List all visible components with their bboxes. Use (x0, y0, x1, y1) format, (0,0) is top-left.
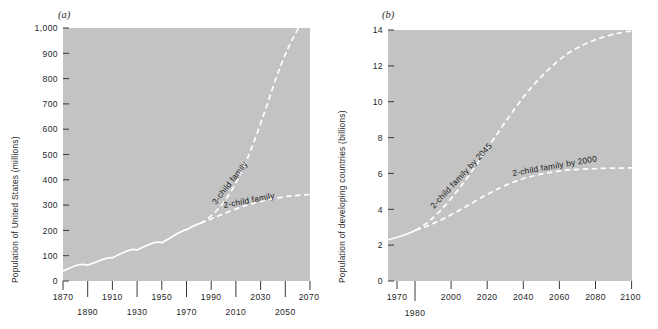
panel-b: (b) Population of developing countries (… (329, 0, 658, 329)
panel-a-xtick-2050: 2050 (275, 307, 296, 317)
panel-b-ytick-4: 4 (378, 205, 383, 215)
panel-b-chart: (b) Population of developing countries (… (329, 0, 658, 329)
panel-a-xtick-1910: 1910 (102, 292, 123, 302)
panel-b-x-tick-labels-upper: 1970 2000 2020 2040 2060 2080 2100 (387, 292, 641, 302)
panel-a-ytick-0: 0 (53, 276, 58, 286)
panel-a-ytick-100: 100 (42, 251, 58, 261)
panel-b-y-axis-title: Population of developing countries (bill… (337, 110, 347, 283)
panel-b-ytick-14: 14 (373, 25, 383, 35)
panel-a-y-axis-title: Population of United States (millions) (10, 136, 20, 283)
panel-b-xtick-2020: 2020 (477, 292, 498, 302)
panel-a-ytick-600: 600 (42, 124, 58, 134)
panel-a-ytick-500: 500 (42, 150, 58, 160)
panel-b-label: (b) (382, 9, 395, 21)
panel-a-ytick-1000: 1,000 (34, 23, 58, 33)
panel-b-y-tick-labels: 0 2 4 6 8 10 12 14 (373, 25, 383, 286)
panel-a-ytick-400: 400 (42, 175, 58, 185)
panel-a-xtick-1930: 1930 (127, 307, 148, 317)
panel-b-xtick-1970: 1970 (387, 292, 408, 302)
panel-a-xtick-1970: 1970 (176, 307, 197, 317)
panel-b-ytick-6: 6 (378, 169, 383, 179)
panel-a: (a) Population of United States (million… (0, 0, 329, 329)
panel-a-ytick-900: 900 (42, 49, 58, 59)
panel-b-ytick-10: 10 (373, 97, 383, 107)
panel-b-xtick-2060: 2060 (549, 292, 570, 302)
panel-a-y-tick-labels: 0 100 200 300 400 500 600 700 800 900 1,… (34, 23, 58, 286)
panel-a-plot-area (63, 28, 310, 281)
panel-a-chart: (a) Population of United States (million… (0, 0, 329, 329)
panel-a-xtick-1890: 1890 (77, 307, 98, 317)
panel-a-xtick-1950: 1950 (151, 292, 172, 302)
panel-a-x-ticks (63, 281, 310, 297)
panel-a-ytick-300: 300 (42, 200, 58, 210)
panel-b-xtick-2080: 2080 (585, 292, 606, 302)
panel-b-ytick-12: 12 (373, 61, 383, 71)
panel-a-xtick-1870: 1870 (53, 292, 74, 302)
panel-a-ytick-700: 700 (42, 99, 58, 109)
panel-b-xtick-1980: 1980 (405, 308, 426, 318)
panel-a-label: (a) (58, 9, 71, 21)
panel-b-xtick-2000: 2000 (441, 292, 462, 302)
panel-b-ytick-2: 2 (378, 240, 383, 250)
panel-b-x-tick-labels-lower: 1980 (405, 308, 426, 318)
panel-b-ytick-0: 0 (378, 276, 383, 286)
panel-a-xtick-2030: 2030 (250, 292, 271, 302)
panel-a-xtick-2010: 2010 (226, 307, 247, 317)
panel-a-xtick-1990: 1990 (201, 292, 222, 302)
panel-b-ytick-8: 8 (378, 133, 383, 143)
population-projection-figure: (a) Population of United States (million… (0, 0, 658, 329)
panel-a-ytick-200: 200 (42, 226, 58, 236)
panel-a-x-tick-labels-lower: 1890 1930 1970 2010 2050 (77, 307, 295, 317)
panel-a-ytick-800: 800 (42, 74, 58, 84)
panel-a-xtick-2070: 2070 (299, 292, 320, 302)
panel-b-xtick-2100: 2100 (620, 292, 641, 302)
panel-b-xtick-2040: 2040 (513, 292, 534, 302)
